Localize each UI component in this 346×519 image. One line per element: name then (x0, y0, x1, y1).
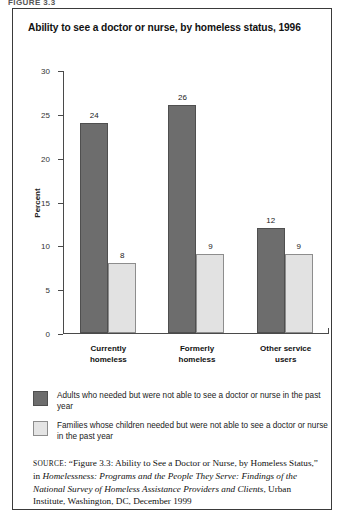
y-tick-15: 15 (58, 203, 63, 204)
y-tick-label-10: 10 (41, 242, 50, 251)
bar[interactable]: 8 (108, 263, 136, 333)
y-tick-label-30: 30 (41, 67, 50, 76)
bar-value-label: 12 (266, 216, 275, 225)
bar-group: 129 (241, 71, 329, 333)
y-tick-0: 0 (58, 334, 63, 335)
bar[interactable]: 9 (285, 254, 313, 333)
figure-caption: FIGURE 3.3 (8, 0, 56, 6)
y-tick-label-20: 20 (41, 154, 50, 163)
bar[interactable]: 9 (196, 254, 224, 333)
category-label: Other serviceusers (241, 344, 330, 365)
bar-groups: 248269129 (64, 71, 329, 333)
bar[interactable]: 24 (80, 123, 108, 333)
y-tick-20: 20 (58, 159, 63, 160)
legend-swatch-dark (33, 391, 48, 406)
bar-value-label: 9 (208, 242, 212, 251)
category-label-line: Currently (64, 344, 153, 355)
figure-page: FIGURE 3.3 Ability to see a doctor or nu… (0, 0, 346, 519)
category-label-line: users (241, 355, 330, 366)
y-tick-label-5: 5 (46, 286, 50, 295)
legend-label: Adults who needed but were not able to s… (57, 391, 333, 412)
legend-swatch-light (33, 421, 48, 436)
y-tick-5: 5 (58, 290, 63, 291)
x-axis-category-labels: CurrentlyhomelessFormerlyhomelessOther s… (64, 344, 330, 365)
y-tick-label-0: 0 (46, 330, 50, 339)
plot-area: Percent 051015202530 248269129 Currently… (13, 61, 333, 361)
y-tick-10: 10 (58, 246, 63, 247)
bar-value-label: 8 (120, 251, 124, 260)
y-tick-25: 25 (58, 115, 63, 116)
bar-value-label: 9 (297, 242, 301, 251)
category-label: Formerlyhomeless (153, 344, 242, 365)
x-axis-line (63, 333, 329, 334)
bar-value-label: 24 (90, 111, 99, 120)
category-label: Currentlyhomeless (64, 344, 153, 365)
source-note: SOURCE: “Figure 3.3: Ability to See a Do… (33, 457, 325, 508)
bar[interactable]: 26 (168, 105, 196, 333)
figure-frame: Ability to see a doctor or nurse, by hom… (12, 8, 332, 510)
bar-value-label: 26 (178, 93, 187, 102)
chart-title: Ability to see a doctor or nurse, by hom… (28, 22, 301, 33)
bar-group: 248 (64, 71, 152, 333)
category-label-line: Other service (241, 344, 330, 355)
chart-legend: Adults who needed but were not able to s… (33, 391, 333, 451)
source-publication-title: Homelessness: Programs and the People Th… (33, 471, 297, 493)
y-tick-30: 30 (58, 71, 63, 72)
plot-canvas: Percent 051015202530 248269129 (63, 71, 329, 334)
category-label-line: homeless (64, 355, 153, 366)
legend-label: Families whose children needed but were … (57, 421, 333, 442)
legend-item[interactable]: Families whose children needed but were … (33, 421, 333, 442)
y-tick-label-15: 15 (41, 198, 50, 207)
y-tick-label-25: 25 (41, 110, 50, 119)
category-label-line: homeless (153, 355, 242, 366)
legend-item[interactable]: Adults who needed but were not able to s… (33, 391, 333, 412)
category-label-line: Formerly (153, 344, 242, 355)
bar[interactable]: 12 (257, 228, 285, 333)
bar-group: 269 (152, 71, 240, 333)
source-label: SOURCE (33, 459, 64, 468)
